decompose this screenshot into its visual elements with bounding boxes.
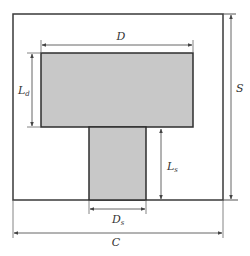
t-shape-diagram: D Ld Ls S Ds C xyxy=(0,0,250,256)
stem-block xyxy=(89,127,146,200)
top-block xyxy=(41,53,193,127)
label-d: D xyxy=(116,30,126,43)
label-s: S xyxy=(236,82,244,95)
label-ds: Ds xyxy=(111,213,125,227)
label-c: C xyxy=(112,236,121,249)
